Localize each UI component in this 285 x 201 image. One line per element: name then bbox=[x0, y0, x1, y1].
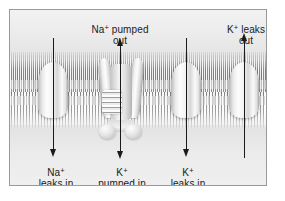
label-na-leaks-in-charge: + bbox=[60, 166, 64, 175]
label-k-leaks-out: K+ leaks out bbox=[198, 22, 267, 47]
label-k-leaks-out-rest: leaks bbox=[238, 24, 265, 35]
arrow-k-leaks-out bbox=[244, 40, 245, 158]
label-k-leaks-out-line2: out bbox=[239, 35, 253, 46]
label-k-pumped-in-charge: + bbox=[123, 166, 127, 175]
label-na-pumped-out-ion: Na bbox=[91, 24, 104, 35]
label-k-leaks-in-charge: + bbox=[189, 166, 193, 175]
arrowhead-down-icon bbox=[50, 149, 56, 157]
arrow-na-leaks-in bbox=[53, 38, 54, 150]
membrane-transport-diagram: Na+ pumped out K+ leaks out Na+ leaks in… bbox=[0, 0, 285, 201]
arrowhead-down-icon bbox=[117, 151, 123, 159]
pump-lobe-right bbox=[125, 124, 142, 139]
label-k-pumped-in-line2: pumped in bbox=[98, 178, 146, 186]
pump-lobe-left bbox=[99, 124, 116, 139]
label-k-leaks-in: K+ leaks in bbox=[140, 165, 236, 186]
label-k-leaks-in-line2: leaks in bbox=[171, 178, 206, 186]
label-na-pumped-out-rest: pumped bbox=[109, 24, 149, 35]
label-k-leaks-out-ion: K bbox=[227, 24, 234, 35]
arrow-k-pumped-in bbox=[120, 45, 121, 152]
label-na-pumped-out: Na+ pumped out bbox=[72, 22, 168, 47]
arrowhead-down-icon bbox=[183, 149, 189, 157]
pump-helix-coil bbox=[102, 90, 122, 114]
label-na-leaks-in-ion: Na bbox=[47, 167, 60, 178]
label-na-leaks-in-line2: leaks in bbox=[39, 178, 74, 186]
label-na-pumped-out-line2: out bbox=[113, 35, 127, 46]
diagram-frame: Na+ pumped out K+ leaks out Na+ leaks in… bbox=[9, 9, 267, 186]
arrow-k-leaks-in bbox=[186, 38, 187, 150]
sodium-potassium-pump bbox=[98, 54, 144, 148]
